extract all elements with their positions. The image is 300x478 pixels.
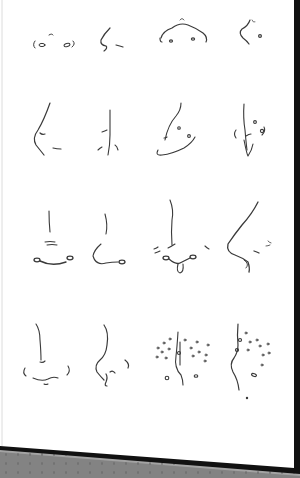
sketch-paper [0, 0, 300, 478]
